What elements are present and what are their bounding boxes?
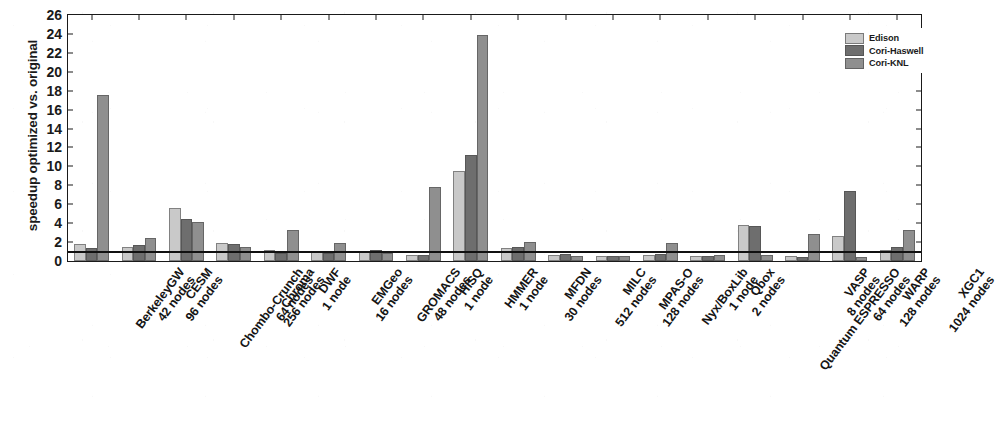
bar-cesm-cori-haswell — [133, 245, 145, 261]
plot-inner — [68, 15, 921, 261]
y-axis-tick-label: 4 — [54, 216, 68, 230]
bar-cesm-edison — [122, 247, 134, 261]
bar-group — [495, 15, 542, 261]
bar-group — [542, 15, 589, 261]
bar-group — [305, 15, 352, 261]
bar-group — [163, 15, 210, 261]
legend-label: Edison — [869, 33, 899, 43]
bar-vasp-cori-knl — [808, 234, 820, 261]
y-axis-title: speedup optimized vs. original — [25, 6, 40, 266]
x-axis-top-tick — [897, 15, 898, 20]
x-axis-top-tick — [423, 15, 424, 20]
y-axis-tick-label: 8 — [54, 178, 68, 192]
legend-label: Cori-KNL — [869, 58, 909, 68]
x-axis-top-tick — [612, 15, 613, 20]
x-axis-label-hmmer: HMMER1 node — [502, 266, 551, 319]
bar-hisq-edison — [406, 255, 418, 261]
bar-chombo-crunch-cori-haswell — [181, 219, 193, 261]
bar-qbox-cori-haswell — [702, 256, 714, 261]
bar-mpas-o-cori-knl — [619, 256, 631, 261]
bar-group — [779, 15, 826, 261]
bar-group — [68, 15, 115, 261]
bar-milc-edison — [548, 255, 560, 261]
bar-hmmer-cori-knl — [477, 35, 489, 261]
y-axis-tick-label: 0 — [54, 254, 68, 268]
x-axis-top-tick — [139, 15, 140, 20]
bar-xgc1-cori-knl — [903, 230, 915, 261]
bar-qbox-edison — [690, 256, 702, 261]
legend-item-cori-haswell: Cori-Haswell — [845, 45, 926, 56]
legend-label: Cori-Haswell — [869, 46, 923, 56]
bar-nyx-boxlib-cori-haswell — [655, 254, 667, 261]
bar-group — [684, 15, 731, 261]
x-axis-top-tick — [707, 15, 708, 20]
bar-quantum-espresso-cori-haswell — [749, 226, 761, 261]
y-axis-tick-label: 24 — [46, 27, 68, 41]
plot-area: 02468101214161820222426 — [67, 14, 922, 262]
x-axis-top-tick — [518, 15, 519, 20]
x-axis-top-tick — [91, 15, 92, 20]
bar-nyx-boxlib-edison — [643, 255, 655, 261]
y-axis-tick-label: 20 — [46, 65, 68, 79]
y-axis-tick-label: 16 — [46, 103, 68, 117]
bar-group — [589, 15, 636, 261]
bar-chombo-crunch-cori-knl — [192, 222, 204, 261]
y-axis-tick-label: 22 — [46, 46, 68, 60]
bar-quantum-espresso-edison — [738, 225, 750, 261]
bar-hmmer-cori-haswell — [465, 155, 477, 261]
bar-group — [352, 15, 399, 261]
x-axis-top-tick — [755, 15, 756, 20]
y-axis-tick-label: 26 — [46, 8, 68, 22]
bar-quantum-espresso-cori-knl — [761, 255, 773, 261]
bar-group — [447, 15, 494, 261]
x-axis-top-tick — [186, 15, 187, 20]
bar-hisq-cori-haswell — [418, 255, 430, 261]
legend-item-cori-knl: Cori-KNL — [845, 58, 926, 69]
bar-warp-cori-knl — [856, 257, 868, 261]
bar-milc-cori-knl — [571, 256, 583, 261]
x-axis-top-tick — [565, 15, 566, 20]
y-axis-tick-label: 10 — [46, 159, 68, 173]
bar-mpas-o-cori-haswell — [607, 256, 619, 261]
x-axis-label-mpas-o: MPAS-O128 nodes — [650, 266, 707, 330]
bar-emgeo-cori-haswell — [323, 253, 335, 262]
bar-group — [731, 15, 778, 261]
bar-warp-edison — [832, 236, 844, 261]
x-axis-label-emgeo: EMGeo16 nodes — [363, 266, 416, 324]
x-axis-top-tick — [849, 15, 850, 20]
bar-vasp-edison — [785, 256, 797, 261]
bar-gromacs-cori-knl — [382, 253, 394, 261]
bar-chombo-crunch-edison — [169, 208, 181, 261]
bar-xgc1-cori-haswell — [891, 247, 903, 261]
x-axis-label-milc: MILC512 nodes — [602, 266, 659, 330]
unity-reference-line — [68, 251, 921, 253]
bar-dwf-cori-knl — [287, 230, 299, 261]
bar-hmmer-edison — [453, 171, 465, 261]
bar-mpas-o-edison — [596, 256, 608, 261]
legend-swatch-cori-knl — [845, 58, 864, 69]
y-axis-tick-label: 14 — [46, 122, 68, 136]
bar-emgeo-edison — [311, 252, 323, 261]
x-axis-top-tick — [233, 15, 234, 20]
chart-legend: EdisonCori-HaswellCori-KNL — [842, 28, 930, 73]
y-axis-tick-label: 6 — [54, 197, 68, 211]
bar-chroma-cori-knl — [240, 247, 252, 261]
legend-item-edison: Edison — [845, 33, 926, 44]
x-axis-top-tick — [376, 15, 377, 20]
y-axis-tick-label: 2 — [54, 235, 68, 249]
x-axis-top-tick — [802, 15, 803, 20]
x-axis-top-tick — [328, 15, 329, 20]
bar-berkeleygw-cori-knl — [97, 95, 109, 261]
bar-vasp-cori-haswell — [797, 257, 809, 261]
x-axis-label-xgc1: XGC11024 nodes — [937, 266, 998, 335]
y-axis-tick-label: 18 — [46, 84, 68, 98]
bar-group — [258, 15, 305, 261]
bar-mfdn-cori-haswell — [512, 247, 524, 261]
bar-group — [115, 15, 162, 261]
x-axis-top-tick — [470, 15, 471, 20]
x-axis-top-tick — [660, 15, 661, 20]
bar-milc-cori-haswell — [560, 254, 572, 261]
bar-group — [210, 15, 257, 261]
y-axis-tick-label: 12 — [46, 140, 68, 154]
